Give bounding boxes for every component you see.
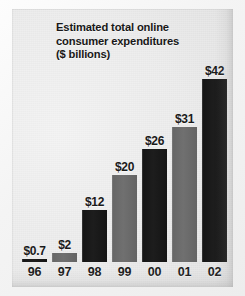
bar-value-label-01: $31 (164, 112, 205, 126)
bar-value-label-00: $26 (134, 134, 175, 148)
bar-01 (172, 127, 197, 262)
bar-02 (202, 79, 227, 262)
bar-group-00: $26 (142, 59, 167, 262)
bar-value-label-99: $20 (104, 160, 145, 174)
axis-label-01: 01 (172, 265, 197, 279)
bar-00 (142, 149, 167, 262)
axis-label-98: 98 (82, 265, 107, 279)
plot-area: $0.7$2$12$20$26$31$42 (22, 59, 227, 262)
chart-title: Estimated total online consumer expendit… (56, 21, 226, 62)
axis-label-02: 02 (202, 265, 227, 279)
axis-label-96: 96 (22, 265, 47, 279)
axis-label-00: 00 (142, 265, 167, 279)
axis-label-97: 97 (52, 265, 77, 279)
chart-panel: Estimated total online consumer expendit… (12, 9, 233, 287)
bar-value-label-97: $2 (44, 238, 85, 252)
bar-97 (52, 253, 77, 262)
bar-98 (82, 210, 107, 262)
bar-group-02: $42 (202, 59, 227, 262)
axis-label-99: 99 (112, 265, 137, 279)
bar-group-99: $20 (112, 59, 137, 262)
bar-value-label-98: $12 (74, 195, 115, 209)
bar-group-01: $31 (172, 59, 197, 262)
bar-group-96: $0.7 (22, 59, 47, 262)
bar-value-label-02: $42 (194, 64, 233, 78)
bar-96 (22, 259, 47, 262)
bar-99 (112, 175, 137, 262)
chart-image: Estimated total online consumer expendit… (0, 0, 245, 296)
bar-group-97: $2 (52, 59, 77, 262)
category-axis: 96979899000102 (22, 265, 227, 283)
